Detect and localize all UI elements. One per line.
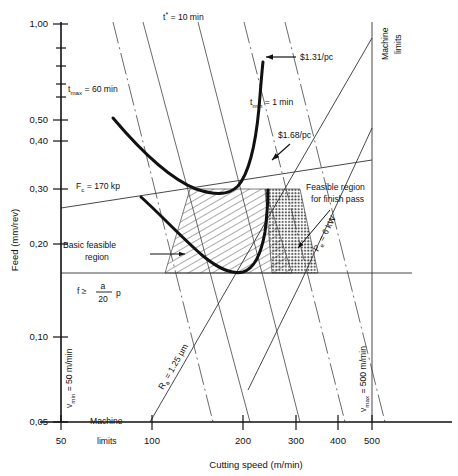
y-tick-0-20: 0,20 [30,238,49,249]
y-tick-0-40: 0,40 [30,135,49,146]
tstar-label: t* = 10 min [163,11,204,22]
x-axis-title: Cutting speed (m/min) [209,459,302,470]
machine-limits-bottom-line2: limits [97,436,117,446]
svg-text:f ≥: f ≥ [77,286,87,296]
y-tick-0-05: 0,05 [30,416,49,427]
basic-region-label-line1: Basic feasible [63,240,116,250]
machining-feasibility-chart: 1,00 0,50 0,40 0,30 0,20 0,10 0,05 50 10… [0,0,458,476]
basic-region-label-line2: region [85,252,109,262]
finish-region-label-line1: Feasible region [306,182,365,192]
x-tick-100: 100 [144,435,160,446]
min-feed-p: p [116,288,121,298]
x-tick-50: 50 [56,435,67,446]
min-feed-denominator: 20 [98,294,108,304]
cost-168-label: $1.68/pc [278,130,312,140]
min-feed-numerator: a [101,281,106,291]
x-tick-400: 400 [330,435,346,446]
finish-region-label-line2: for finish pass [311,194,364,204]
machine-limits-bottom-line1: Machine [90,416,123,426]
machine-limits-top-line2: limits [393,34,403,54]
y-tick-0-10: 0,10 [30,331,49,342]
y-tick-0-50: 0,50 [30,114,49,125]
y-tick-0-30: 0,30 [30,183,49,194]
y-axis-title: Feed (mm/rev) [9,209,20,271]
x-tick-200: 200 [235,435,251,446]
x-tick-500: 500 [364,435,380,446]
machine-limits-top-line1: Machine [380,27,390,60]
cost-131-label: $1.31/pc [300,52,334,62]
y-tick-1-00: 1,00 [30,18,49,29]
x-tick-300: 300 [288,435,304,446]
